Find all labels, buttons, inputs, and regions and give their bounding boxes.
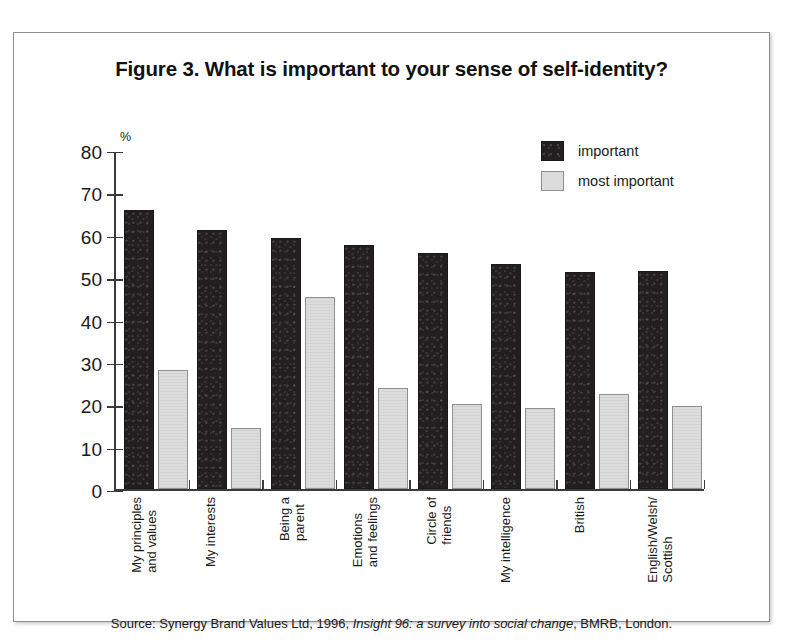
y-axis-tick-label: 80 [81,143,102,162]
x-axis-label-cell: Being a parent [262,493,336,621]
bar-most-important [599,394,629,489]
y-axis-tick-label: 60 [81,227,102,246]
x-axis-category-label: Circle of friends [425,497,454,545]
bar-important [124,210,154,489]
page-title: Figure 3. What is important to your sens… [14,57,769,81]
y-axis-tick-label: 50 [81,270,102,289]
bar-groups [116,152,704,489]
figure-frame: Figure 3. What is important to your sens… [13,32,770,622]
x-axis-label-cell: Emotions and feelings [335,493,409,621]
x-axis-label-cell: British [557,493,631,621]
x-axis-category-label: My principles and values [130,497,159,573]
chart-plot-area: % 80706050403020100 [114,152,704,491]
bar-group [410,152,484,489]
bar-group [630,152,704,489]
x-axis-category-label: My intelligence [499,497,514,583]
bar-most-important [231,428,261,489]
x-axis-label-cell: My principles and values [114,493,188,621]
x-axis-label-cell: Circle of friends [409,493,483,621]
x-axis-label-cell: My intelligence [483,493,557,621]
y-axis-tick-label: 70 [81,185,102,204]
x-axis-category-label: British [573,497,588,533]
x-axis-category-labels: My principles and valuesMy interestsBein… [114,493,704,621]
y-axis-tick-label: 10 [81,439,102,458]
x-axis-line [114,489,704,491]
bar-important [491,264,521,489]
bar-important [565,272,595,489]
source-publication-title: Insight 96: a survey into social change [353,616,573,631]
bar-important [344,245,374,489]
bar-group [116,152,190,489]
x-axis-category-label: Being a parent [278,497,307,541]
bar-most-important [525,408,555,490]
source-note: Source: Synergy Brand Values Ltd, 1996, … [14,616,769,631]
x-axis-category-label: Emotions and feelings [351,497,380,567]
bar-most-important [672,406,702,490]
bar-important [197,230,227,489]
source-suffix: , BMRB, London. [573,616,672,631]
x-axis-category-label: English/Welsh/ Scottish [646,497,675,583]
bar-most-important [305,297,335,490]
x-axis-category-label: My interests [204,497,219,567]
x-axis-label-cell: English/Welsh/ Scottish [630,493,704,621]
y-axis-tick-label: 0 [91,482,102,501]
bar-important [271,238,301,490]
x-axis-group-tick [704,480,705,489]
bar-group [483,152,557,489]
y-axis-tick-label: 20 [81,397,102,416]
bar-important [638,271,668,489]
bar-group [557,152,631,489]
y-axis-unit-label: % [120,130,131,144]
bar-most-important [452,404,482,489]
bar-most-important [378,388,408,489]
y-axis-tick-label: 30 [81,354,102,373]
bar-group [336,152,410,489]
bar-group [263,152,337,489]
bar-most-important [158,370,188,489]
bar-important [418,253,448,489]
y-axis-tick-label: 40 [81,312,102,331]
source-prefix: Source: Synergy Brand Values Ltd, 1996, [111,616,353,631]
bar-group [189,152,263,489]
x-axis-label-cell: My interests [188,493,262,621]
